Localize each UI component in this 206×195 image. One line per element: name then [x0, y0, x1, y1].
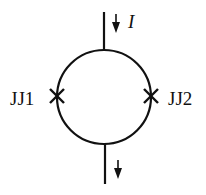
arrow-down-icon — [112, 14, 120, 33]
jj2-label: JJ2 — [168, 89, 192, 108]
jj1-label: JJ1 — [10, 89, 34, 108]
arrow-down-icon — [114, 160, 122, 179]
current-label: I — [128, 12, 134, 31]
loop — [57, 50, 151, 144]
